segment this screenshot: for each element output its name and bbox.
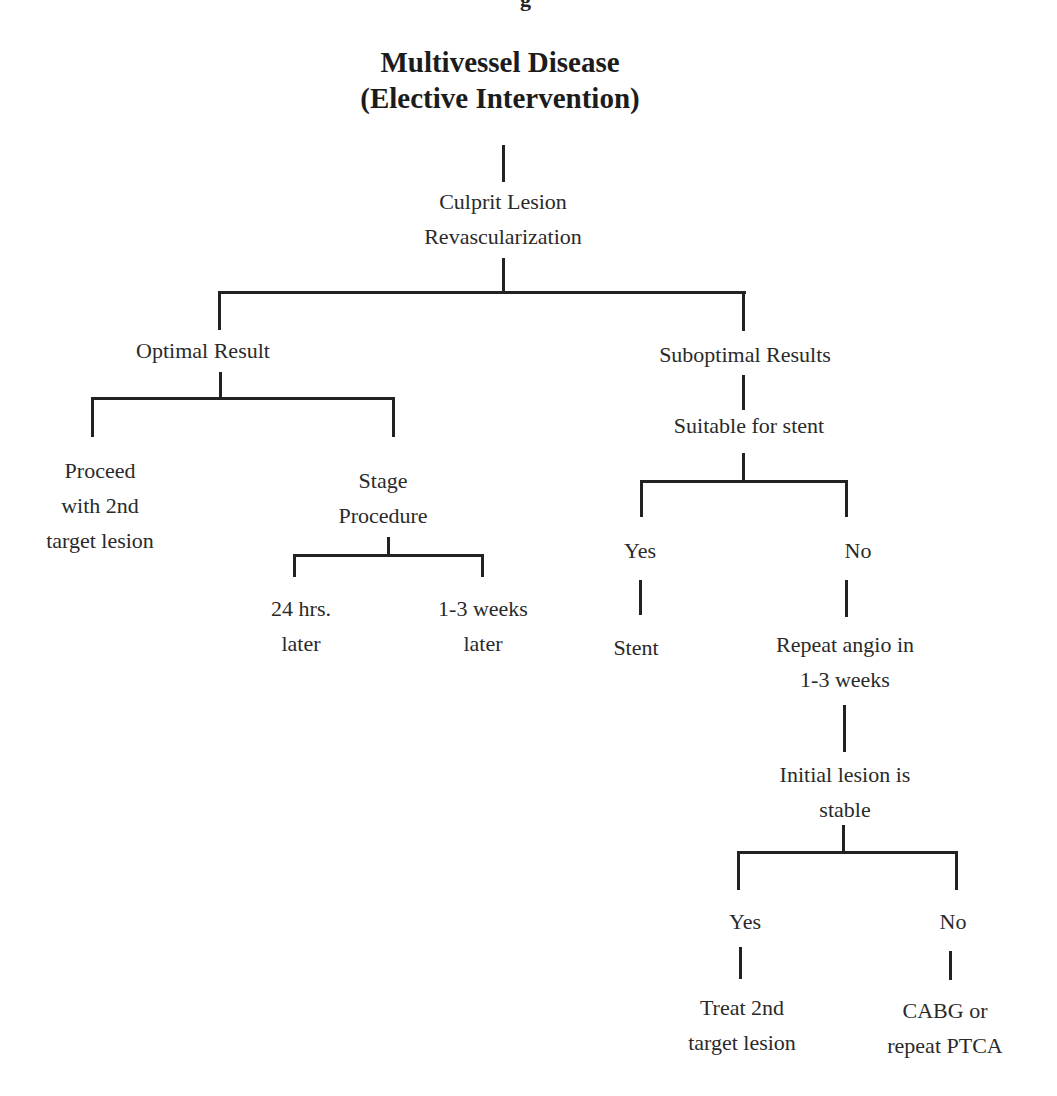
node-yes-suitable: Yes — [624, 533, 656, 568]
node-text: Procedure — [338, 498, 427, 533]
connector-line — [392, 397, 395, 437]
connector-line — [739, 947, 742, 979]
node-yes-stable: Yes — [729, 904, 761, 939]
node-text: with 2nd — [46, 488, 154, 523]
connector-line — [949, 951, 952, 980]
connector-line — [742, 453, 745, 482]
node-text: repeat PTCA — [887, 1028, 1002, 1063]
node-repeat-angio: Repeat angio in 1-3 weeks — [776, 627, 914, 697]
node-text: No — [940, 904, 967, 939]
node-cabg-or-repeat-ptca: CABG or repeat PTCA — [887, 993, 1002, 1063]
node-initial-lesion-stable: Initial lesion is stable — [780, 757, 911, 827]
connector-line — [845, 480, 848, 517]
node-text: 1-3 weeks — [438, 591, 528, 626]
connector-line — [955, 851, 958, 890]
node-text: target lesion — [688, 1025, 796, 1060]
branch-line — [640, 480, 848, 483]
connector-line — [640, 480, 643, 517]
title-line-1: Multivessel Disease — [300, 44, 700, 80]
node-text: stable — [780, 792, 911, 827]
connector-line — [742, 291, 745, 331]
node-text: No — [845, 533, 872, 568]
title-line-2: (Elective Intervention) — [300, 80, 700, 116]
node-treat-2nd-lesion: Treat 2nd target lesion — [688, 990, 796, 1060]
node-text: Stent — [613, 630, 658, 665]
node-text: Treat 2nd — [688, 990, 796, 1025]
node-text: Suboptimal Results — [659, 337, 831, 372]
node-stage-procedure: Stage Procedure — [338, 463, 427, 533]
node-suitable-for-stent: Suitable for stent — [674, 408, 824, 443]
node-culprit-lesion: Culprit Lesion Revascularization — [424, 184, 582, 254]
node-text: target lesion — [46, 523, 154, 558]
clipped-header-fragment: g — [520, 0, 531, 12]
node-text: 24 hrs. — [271, 591, 331, 626]
branch-line — [737, 851, 958, 854]
node-no-stable: No — [940, 904, 967, 939]
node-text: Repeat angio in — [776, 627, 914, 662]
node-text: Suitable for stent — [674, 408, 824, 443]
branch-line — [293, 554, 484, 557]
node-text: later — [271, 626, 331, 661]
connector-line — [91, 397, 94, 437]
node-suboptimal-results: Suboptimal Results — [659, 337, 831, 372]
diagram-title: Multivessel Disease (Elective Interventi… — [300, 44, 700, 116]
connector-line — [639, 580, 642, 615]
node-text: Revascularization — [424, 219, 582, 254]
node-text: Yes — [729, 904, 761, 939]
node-stent: Stent — [613, 630, 658, 665]
connector-line — [219, 372, 222, 399]
branch-line — [91, 397, 395, 400]
node-24-hrs-later: 24 hrs. later — [271, 591, 331, 661]
connector-line — [481, 554, 484, 577]
node-text: later — [438, 626, 528, 661]
connector-line — [502, 145, 505, 182]
connector-line — [845, 580, 848, 617]
node-text: Optimal Result — [136, 333, 270, 368]
node-proceed-2nd-lesion: Proceed with 2nd target lesion — [46, 453, 154, 558]
branch-line — [218, 291, 746, 294]
node-text: CABG or — [887, 993, 1002, 1028]
connector-line — [502, 258, 505, 293]
node-text: Culprit Lesion — [424, 184, 582, 219]
node-text: Proceed — [46, 453, 154, 488]
node-text: Stage — [338, 463, 427, 498]
connector-line — [218, 291, 221, 330]
connector-line — [293, 554, 296, 577]
node-text: Yes — [624, 533, 656, 568]
node-text: 1-3 weeks — [776, 662, 914, 697]
node-no-suitable: No — [845, 533, 872, 568]
node-text: Initial lesion is — [780, 757, 911, 792]
connector-line — [843, 705, 846, 752]
connector-line — [742, 375, 745, 410]
connector-line — [737, 851, 740, 890]
node-optimal-result: Optimal Result — [136, 333, 270, 368]
connector-line — [842, 825, 845, 853]
node-1-3-weeks-later: 1-3 weeks later — [438, 591, 528, 661]
